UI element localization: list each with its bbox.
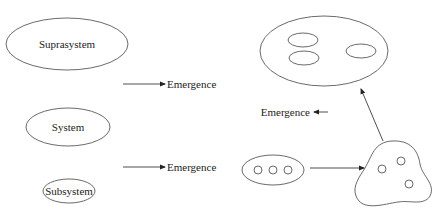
diagram-svg: Suprasystem System Subsystem Emergence E… (0, 0, 440, 215)
upward-arrow-icon (361, 89, 383, 141)
component-circle (269, 166, 277, 174)
component-circle (284, 166, 292, 174)
system-label: System (52, 121, 85, 133)
components-group (242, 155, 304, 185)
system-blob (355, 141, 432, 206)
emergence-label-lower: Emergence (167, 161, 216, 173)
emergence-label-right: Emergence (261, 106, 310, 118)
emergence-arrow-right: Emergence (261, 106, 328, 118)
emergence-arrow-upper: Emergence (123, 78, 216, 90)
inner-system-ellipse (288, 33, 318, 47)
emergence-diagram: Suprasystem System Subsystem Emergence E… (0, 0, 440, 215)
emergence-label-upper: Emergence (167, 78, 216, 90)
subsystem-label: Subsystem (45, 185, 93, 197)
blob-circle (397, 157, 405, 165)
system-node: System (26, 108, 110, 146)
suprasystem-label: Suprasystem (39, 38, 96, 50)
inner-system-ellipse (289, 51, 319, 65)
suprasystem-illustration (260, 16, 388, 86)
subsystem-node: Subsystem (43, 179, 95, 203)
blob-circle (378, 165, 386, 173)
suprasystem-node: Suprasystem (6, 18, 128, 70)
component-circle (254, 166, 262, 174)
inner-system-ellipse (346, 44, 376, 58)
emergence-arrow-lower: Emergence (123, 161, 216, 173)
blob-circle (405, 180, 413, 188)
